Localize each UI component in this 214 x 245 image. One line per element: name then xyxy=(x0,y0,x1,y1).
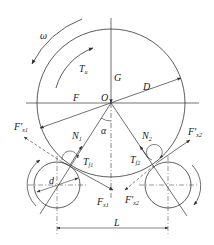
alpha-label: α xyxy=(101,125,107,136)
tu-label: Tu xyxy=(79,63,88,75)
n2-label: N2 xyxy=(141,130,152,142)
omega-rotation-arrow xyxy=(32,19,82,64)
n1-label: N1 xyxy=(71,130,82,142)
fx1-label: Fx1 xyxy=(96,196,109,208)
center-o-label: O xyxy=(101,92,108,103)
fx1-prime-arrow xyxy=(24,137,62,162)
tf2-torque-arrow xyxy=(146,144,162,160)
n1-arrow xyxy=(70,146,82,165)
left-roller-rotation-arrow xyxy=(27,160,40,206)
normal-line-2 xyxy=(111,103,187,216)
alpha-arc xyxy=(101,118,111,121)
fx2-prime-arrow xyxy=(158,140,190,162)
roller-d-label: d xyxy=(49,175,55,186)
force-f-label: F xyxy=(72,92,80,103)
fx2-prime-label: F'x2 xyxy=(187,126,202,138)
diameter-d-label: D xyxy=(142,81,151,92)
diagram-svg: ω Tu G F O D α N1 N2 Tf1 Tf2 d F'x1 F'x2… xyxy=(0,0,214,245)
distance-l-label: L xyxy=(113,217,120,228)
tf1-label: Tf1 xyxy=(83,156,93,168)
fx2-lower-prime-arrow xyxy=(125,162,158,190)
fx1-prime-label: F'x1 xyxy=(13,121,28,133)
gravity-label: G xyxy=(114,72,121,83)
force-diagram: ω Tu G F O D α N1 N2 Tf1 Tf2 d F'x1 F'x2… xyxy=(0,0,214,245)
omega-label: ω xyxy=(40,30,47,41)
n2-arrow xyxy=(140,146,148,158)
tu-torque-arrow xyxy=(56,48,93,88)
tf2-label: Tf2 xyxy=(130,154,140,166)
fx2-lower-prime-label: F'x2 xyxy=(124,194,139,206)
